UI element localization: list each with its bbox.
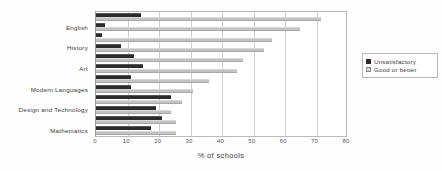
x-tick-label: 20 [154,138,161,144]
bar-good-or-better [96,120,176,124]
bar-chart: EnglishHistoryArtModern LanguagesDesign … [0,0,442,171]
x-tick-label: 70 [311,138,318,144]
bar-unsatisfactory [96,54,134,58]
bar-good-or-better [96,17,321,21]
bar-unsatisfactory [96,85,131,89]
category-label: Mathematics [50,126,88,133]
bar-good-or-better [96,38,272,42]
chart-legend: Unsatisfactory Good or better [362,53,438,78]
legend-swatch-icon [366,67,371,72]
legend-swatch-icon [366,59,371,64]
x-tick-label: 10 [123,138,130,144]
bars-layer [96,12,347,136]
bar-good-or-better [96,27,300,31]
bar-unsatisfactory [96,116,162,120]
bar-good-or-better [96,58,243,62]
x-tick-label: 80 [342,138,349,144]
bar-unsatisfactory [96,33,102,37]
x-axis-tick-labels: 01020304050607080 [95,138,347,150]
bar-good-or-better [96,110,171,114]
bar-unsatisfactory [96,95,171,99]
x-tick-label: 40 [217,138,224,144]
bar-good-or-better [96,69,237,73]
bar-good-or-better [96,79,209,83]
category-label: Art [79,64,88,71]
x-axis-title: % of schools [95,151,347,160]
x-tick-label: 60 [280,138,287,144]
legend-item-unsatisfactory: Unsatisfactory [366,58,434,65]
category-label: Design and Technology [19,106,88,113]
category-axis-labels: EnglishHistoryArtModern LanguagesDesign … [0,11,92,137]
bar-good-or-better [96,100,182,104]
bar-unsatisfactory [96,44,121,48]
bar-unsatisfactory [96,23,105,27]
bar-good-or-better [96,131,176,135]
bar-unsatisfactory [96,126,151,130]
category-label: History [67,44,88,51]
category-label: English [66,23,88,30]
bar-good-or-better [96,89,193,93]
bar-good-or-better [96,48,264,52]
x-tick-label: 30 [186,138,193,144]
bar-unsatisfactory [96,75,131,79]
legend-item-good-or-better: Good or better [366,66,434,73]
legend-label: Good or better [374,66,417,73]
x-tick-label: 0 [93,138,97,144]
category-label: Modern Languages [31,85,88,92]
bar-unsatisfactory [96,13,141,17]
legend-label: Unsatisfactory [374,58,416,65]
bar-unsatisfactory [96,106,156,110]
x-tick-label: 50 [248,138,255,144]
bar-unsatisfactory [96,64,143,68]
